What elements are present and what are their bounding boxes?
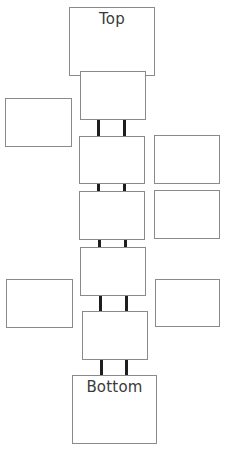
- box-label: Top: [70, 10, 154, 28]
- connector-bar: [100, 359, 103, 375]
- connector-bar: [125, 295, 128, 311]
- connector-bar: [123, 119, 126, 136]
- connector-bar: [123, 183, 126, 191]
- connector-bar: [98, 239, 101, 247]
- connector-bar: [97, 183, 100, 191]
- box-side-right-1: [154, 135, 220, 184]
- box-stack-1: [80, 71, 146, 120]
- box-top: Top: [69, 7, 155, 76]
- box-stack-3: [79, 191, 145, 240]
- box-side-right-2: [154, 190, 220, 239]
- box-bottom: Bottom: [72, 375, 157, 444]
- connector-bar: [125, 359, 128, 375]
- box-stack-5: [82, 311, 148, 360]
- box-side-left-1: [5, 98, 72, 147]
- box-stack-2: [79, 136, 145, 184]
- box-side-right-3: [155, 279, 220, 327]
- box-stack-4: [80, 247, 146, 296]
- connector-bar: [99, 295, 102, 311]
- box-side-left-2: [6, 279, 73, 328]
- connector-bar: [124, 239, 127, 247]
- connector-bar: [97, 119, 100, 136]
- box-label: Bottom: [73, 378, 156, 396]
